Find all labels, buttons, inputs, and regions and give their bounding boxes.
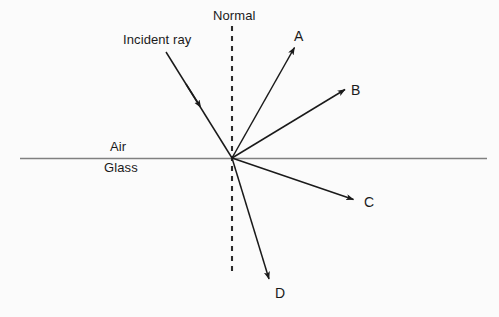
- label-normal: Normal: [213, 9, 256, 23]
- label-air: Air: [110, 140, 126, 154]
- label-glass: Glass: [104, 161, 138, 175]
- label-ray-d: D: [275, 286, 285, 300]
- ray-d-line: [232, 158, 269, 279]
- ray-a-line: [232, 48, 295, 159]
- label-ray-c: C: [364, 195, 374, 209]
- diagram-canvas: Normal Incident ray Air Glass A B C D: [0, 0, 499, 317]
- label-ray-b: B: [351, 83, 360, 97]
- incident-ray: [166, 52, 232, 158]
- ray-b-line: [232, 90, 345, 159]
- refraction-diagram: [0, 0, 499, 317]
- ray-c-line: [232, 158, 354, 200]
- label-incident-ray: Incident ray: [123, 33, 191, 47]
- incident-ray-arrow: [186, 84, 199, 105]
- label-ray-a: A: [294, 29, 303, 43]
- incident-ray-line: [166, 52, 232, 158]
